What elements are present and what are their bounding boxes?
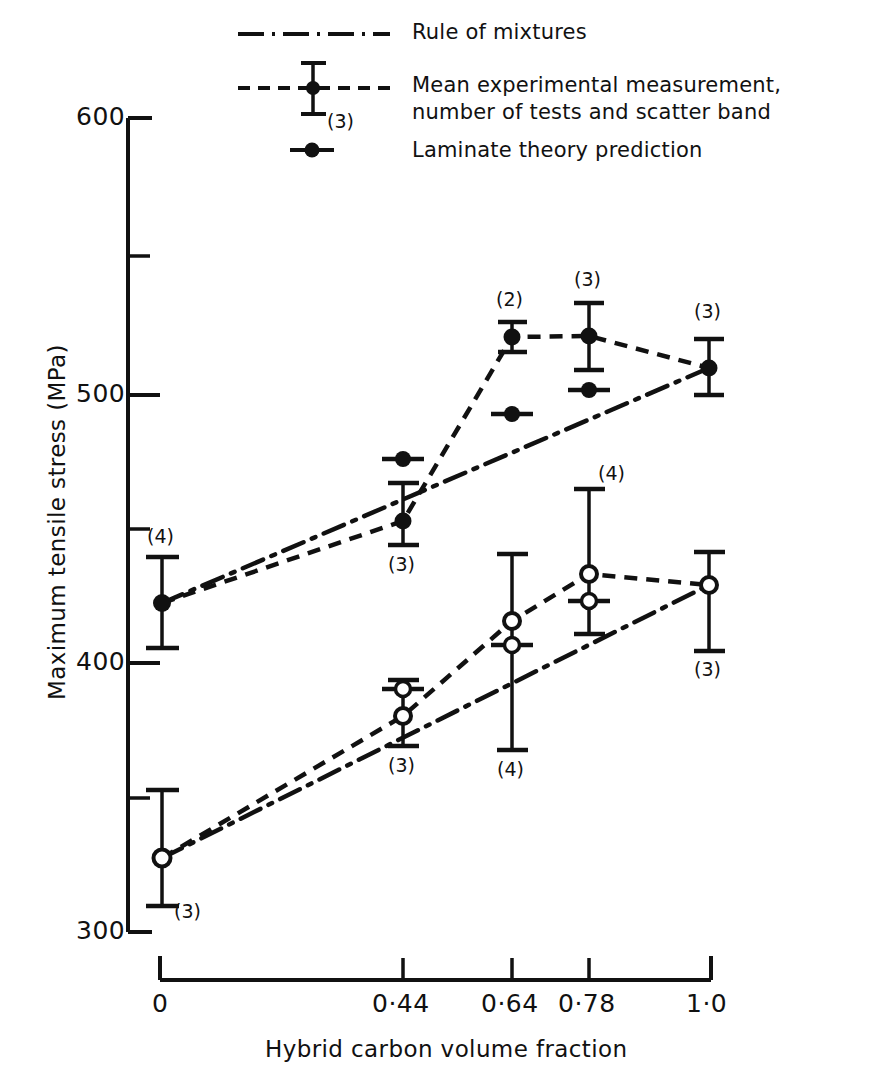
- x-tick-label-078: 0·78: [558, 989, 616, 1018]
- legend-swatch-mean-experimental: [238, 63, 390, 114]
- laminate-marker-lower-064: [491, 638, 533, 653]
- x-axis-title: Hybrid carbon volume fraction: [265, 1036, 628, 1062]
- annotation-lower-064: (4): [497, 758, 524, 780]
- series-rule-of-mixtures: [162, 368, 709, 858]
- data-point-upper-100: [694, 339, 724, 395]
- annotation-upper-064: (2): [496, 288, 523, 310]
- laminate-marker-064: [491, 406, 533, 422]
- annotation-upper-0: (4): [147, 525, 174, 547]
- laminate-marker-lower-078: [568, 594, 610, 609]
- annotation-upper-044: (3): [388, 553, 415, 575]
- annotation-upper-078: (3): [574, 268, 601, 290]
- chart-plot-area: [0, 0, 882, 1083]
- legend-label-mean-experimental: Mean experimental measurement,: [412, 73, 781, 97]
- x-tick-label-0: 0: [152, 989, 168, 1018]
- laminate-marker-078: [568, 382, 610, 398]
- axis-lines: [128, 118, 711, 980]
- legend-label-rule-of-mixtures: Rule of mixtures: [412, 20, 587, 44]
- series-upper-experimental: [146, 303, 724, 648]
- y-axis-title: Maximum tensile stress (MPa): [44, 344, 70, 700]
- legend-marks: [238, 34, 390, 158]
- laminate-marker-044: [382, 451, 424, 467]
- legend-label-mean-experimental-line2: number of tests and scatter band: [412, 100, 771, 124]
- y-tick-label-400: 400: [76, 647, 125, 676]
- figure-canvas: Rule of mixtures Mean experimental measu…: [0, 0, 882, 1083]
- y-tick-label-300: 300: [76, 916, 125, 945]
- annotation-lower-0: (3): [174, 900, 201, 922]
- x-tick-label-100: 1·0: [686, 989, 727, 1018]
- data-point-upper-0: [146, 557, 179, 648]
- data-point-lower-078: [574, 489, 605, 634]
- annotation-lower-078: (4): [598, 462, 625, 484]
- annotation-lower-100: (3): [694, 658, 721, 680]
- x-tick-label-064: 0·64: [481, 989, 539, 1018]
- data-point-lower-0: [146, 790, 179, 906]
- legend-label-laminate-theory: Laminate theory prediction: [412, 138, 702, 162]
- annotation-lower-044: (3): [388, 754, 415, 776]
- data-point-upper-064: [498, 322, 527, 352]
- legend-swatch-laminate-theory: [290, 143, 334, 158]
- annotation-upper-100: (3): [694, 300, 721, 322]
- x-tick-label-044: 0·44: [372, 989, 430, 1018]
- series-lower-experimental: [146, 489, 725, 906]
- legend-sample-count: (3): [327, 110, 354, 132]
- y-tick-label-600: 600: [76, 102, 125, 131]
- laminate-marker-lower-044: [382, 682, 424, 697]
- y-tick-label-500: 500: [76, 379, 125, 408]
- data-point-lower-100: [694, 552, 725, 651]
